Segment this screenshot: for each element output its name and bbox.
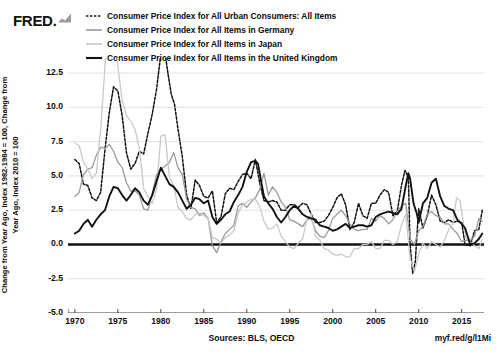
legend-item-germany[interactable]: Consumer Price Index for All Items in Ge… (86, 24, 338, 36)
legend-label-japan: Consumer Price Index for All Items in Ja… (107, 39, 282, 49)
legend-line-solid-icon (86, 39, 102, 49)
y-tick-label: 7.5 (51, 137, 63, 146)
gridlines (68, 73, 484, 313)
x-tick-label: 2005 (366, 316, 385, 326)
sources-note: Sources: BLS, OECD (0, 333, 503, 343)
x-axis-tick-labels: 1970197519801985199019952000200520102015 (0, 316, 503, 330)
series-line-uk (75, 161, 482, 245)
y-tick-label: 0.0 (51, 239, 63, 248)
legend-label-us: Consumer Price Index for All Urban Consu… (107, 11, 336, 21)
y-tick-label: 2.5 (51, 205, 63, 214)
legend-line-solid-icon (86, 25, 102, 35)
permalink-url[interactable]: myf.red/g/l1Mi (435, 333, 491, 343)
legend-line-dashed-icon (86, 11, 102, 21)
plot-area (68, 58, 484, 313)
x-tick-label: 2000 (323, 316, 342, 326)
legend-label-germany: Consumer Price Index for All Items in Ge… (107, 25, 294, 35)
x-tick-label: 2010 (409, 316, 428, 326)
y-tick-label: -2.5 (48, 274, 63, 283)
series-line-us (75, 58, 482, 273)
y-axis-tick-labels: 12.510.07.55.02.50.0-2.5-5.0 (0, 0, 63, 363)
y-tick-label: 12.5 (46, 68, 63, 77)
x-tick-label: 1980 (151, 316, 170, 326)
plot-svg (68, 58, 484, 313)
y-tick-label: 10.0 (46, 102, 63, 111)
legend-item-japan[interactable]: Consumer Price Index for All Items in Ja… (86, 38, 338, 50)
x-tick-label: 1970 (65, 316, 84, 326)
y-tick-label: 5.0 (51, 171, 63, 180)
series-line-japan (75, 58, 482, 272)
fred-chart-figure: FRED. Consumer Price Index for All Urban… (0, 0, 503, 363)
x-tick-label: 2015 (452, 316, 471, 326)
legend-item-us[interactable]: Consumer Price Index for All Urban Consu… (86, 10, 338, 22)
x-tick-label: 1995 (280, 316, 299, 326)
x-tick-label: 1975 (108, 316, 127, 326)
x-tick-label: 1990 (237, 316, 256, 326)
x-tick-label: 1985 (194, 316, 213, 326)
